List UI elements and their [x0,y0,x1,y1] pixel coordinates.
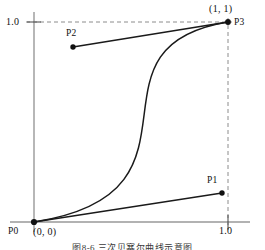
control-segment-p2-p3 [73,22,228,47]
control-point-p3 [225,19,231,25]
control-point-p2 [70,44,75,49]
corner-coordinate-label: (1, 1) [209,4,232,14]
bezier-figure: 1.0 1.0 (1, 1) (0, 0) P0 P1 P2 P3 图8-6 三… [0,0,265,250]
plot-canvas [0,0,265,250]
y-axis-tick-label-max: 1.0 [6,17,19,27]
origin-coordinate-label: (0, 0) [33,227,56,237]
bezier-curve [34,22,228,222]
x-axis-tick-label-max: 1.0 [219,226,232,236]
figure-caption: 图8-6 三次贝塞尔曲线示意图 [0,243,265,250]
point-label-p3: P3 [234,18,244,28]
point-label-p2: P2 [66,29,76,39]
control-point-p1 [219,190,224,195]
point-label-p0: P0 [8,227,18,237]
control-point-p0 [31,219,37,225]
control-segment-p0-p1 [34,193,222,222]
point-label-p1: P1 [207,176,217,186]
